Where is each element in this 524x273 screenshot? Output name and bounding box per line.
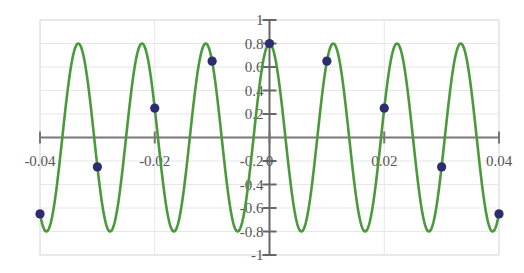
y-tick-label: 0.2 xyxy=(245,106,264,122)
sample-point xyxy=(150,104,159,113)
sample-point xyxy=(35,209,44,218)
axes xyxy=(40,20,499,255)
sample-point xyxy=(380,104,389,113)
x-tick-label: -0.02 xyxy=(139,153,170,169)
sample-point xyxy=(265,39,274,48)
sample-point xyxy=(494,209,503,218)
x-tick-label: 0.04 xyxy=(486,153,513,169)
x-tick-label: -0.04 xyxy=(24,153,56,169)
y-tick-label: -1 xyxy=(251,247,264,263)
y-tick-label: 0.8 xyxy=(245,36,264,52)
y-tick-label: 0.4 xyxy=(245,83,264,99)
sample-point xyxy=(437,162,446,171)
sample-point xyxy=(93,162,102,171)
x-tick-label: 0.02 xyxy=(371,153,397,169)
sample-point xyxy=(322,57,331,66)
y-tick-label: -0.4 xyxy=(240,177,264,193)
y-tick-label: -0.8 xyxy=(240,224,264,240)
x-tick-label: 0 xyxy=(266,153,274,169)
sampled-cosine-chart: -0.04-0.0200.020.04-1-0.8-0.6-0.4-0.20.2… xyxy=(0,0,524,273)
y-tick-label: 1 xyxy=(256,12,264,28)
sample-point xyxy=(208,57,217,66)
